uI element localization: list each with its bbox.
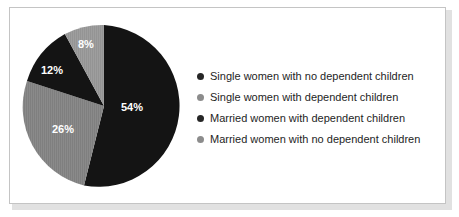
plot-area: 54% 26% 12% 8% Single women with no depe… (0, 0, 459, 217)
legend-item: Single women with no dependent children (197, 66, 447, 87)
legend-marker-icon (197, 115, 204, 122)
legend-item-label: Single women with no dependent children (210, 70, 414, 83)
pie-chart-figure: 54% 26% 12% 8% Single women with no depe… (0, 0, 459, 217)
legend-item: Single women with dependent children (197, 87, 447, 108)
pie-value-label-married-with-dependent: 12% (41, 64, 63, 76)
legend-item-label: Single women with dependent children (210, 91, 398, 104)
legend-marker-icon (197, 94, 204, 101)
pie-svg (22, 22, 188, 192)
legend-marker-icon (197, 73, 204, 80)
chart-legend: Single women with no dependent children … (197, 66, 447, 150)
legend-item-label: Married women with dependent children (210, 112, 405, 125)
legend-marker-icon (197, 136, 204, 143)
legend-item-label: Married women with no dependent children (210, 133, 420, 146)
legend-item: Married women with dependent children (197, 108, 447, 129)
pie-value-label-single-with-dependent: 26% (52, 123, 74, 135)
pie-value-label-married-no-dependent: 8% (78, 38, 94, 50)
legend-item: Married women with no dependent children (197, 129, 447, 150)
pie-value-label-single-no-dependent: 54% (121, 101, 143, 113)
